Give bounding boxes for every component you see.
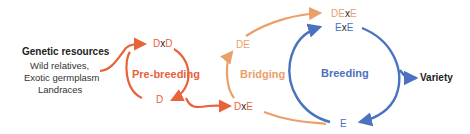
node-de: DE [234, 39, 252, 51]
node-dxe: DxE [232, 101, 255, 113]
phase-breeding: Breeding [321, 68, 369, 79]
node-exe-right: E [347, 22, 354, 33]
node-dexe-left: DE [331, 8, 345, 19]
phase-bridging: Bridging [240, 69, 285, 80]
node-dxd: DxD [151, 38, 174, 50]
node-e: E [338, 118, 349, 130]
node-dexe-right: E [350, 8, 357, 19]
node-exe-left: E [335, 22, 342, 33]
node-dxe-right: E [246, 101, 253, 112]
node-exe: ExE [333, 22, 355, 34]
node-dexe: DExE [329, 8, 359, 20]
node-dxd-right: D [165, 38, 172, 49]
genetic-resources-title: Genetic resources [22, 47, 109, 57]
node-d: D [154, 94, 165, 106]
genetic-resource-item: Wild relatives, [30, 61, 89, 71]
genetic-resource-item: Landraces [38, 85, 82, 95]
arrow-dxe-to-de [227, 52, 234, 98]
arrow-d-to-dxe [186, 98, 230, 107]
genetic-resource-item: Exotic germplasm [24, 73, 100, 83]
phase-prebreeding: Pre-breeding [132, 69, 200, 80]
output-variety: Variety [420, 73, 453, 83]
arrow-to-variety [400, 70, 416, 78]
